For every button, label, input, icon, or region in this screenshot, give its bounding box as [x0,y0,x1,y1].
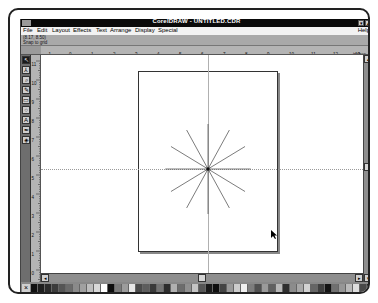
color-swatch[interactable] [143,284,150,292]
color-swatch[interactable] [255,284,262,292]
menu-bar: File Edit Layout Effects Text Arrange Di… [21,27,370,35]
menu-special[interactable]: Special [158,27,178,33]
color-swatch[interactable] [59,284,66,292]
minimize-button[interactable]: ▾ [358,20,364,26]
maximize-button[interactable]: ▴ [365,20,370,26]
color-swatch[interactable] [199,284,206,292]
color-swatch[interactable] [108,284,115,292]
menu-effects[interactable]: Effects [73,27,91,33]
color-swatch[interactable] [171,284,178,292]
menu-edit[interactable]: Edit [37,27,47,33]
color-swatch[interactable] [31,284,38,292]
toolbox: ↖ ⅄ ⌕ ✎ ▭ ○ A ✒ ◈ [21,55,31,282]
svg-text:10: 10 [32,81,38,86]
color-swatch[interactable] [360,284,367,292]
color-swatch[interactable] [262,284,269,292]
menu-layout[interactable]: Layout [52,27,70,33]
horizontal-scroll-thumb[interactable] [198,274,206,282]
svg-text:8: 8 [32,119,35,124]
shape-tool-icon[interactable]: ⅄ [22,66,30,74]
svg-text:3: 3 [32,214,35,219]
color-swatch[interactable] [248,284,255,292]
no-fill-swatch[interactable]: × [22,284,30,292]
mouse-cursor-icon [271,230,279,240]
svg-text:1: 1 [32,252,35,257]
color-swatch[interactable] [87,284,94,292]
star-burst-drawing[interactable] [41,55,363,282]
horizontal-scrollbar[interactable]: ◂ ▸ [41,273,363,282]
menu-help[interactable]: Help [358,27,370,33]
menu-text[interactable]: Text [96,27,107,33]
color-swatch[interactable] [297,284,304,292]
color-swatch[interactable] [346,284,353,292]
color-swatch[interactable] [45,284,52,292]
color-swatch[interactable] [122,284,129,292]
screen-bezel: CorelDRAW - UNTITLED.CDR ▾ ▴ File Edit L… [8,8,370,294]
color-swatch[interactable] [157,284,164,292]
color-swatch[interactable] [185,284,192,292]
outline-tool-icon[interactable]: ✒ [22,126,30,134]
color-swatch[interactable] [80,284,87,292]
color-swatch[interactable] [339,284,346,292]
drawing-canvas[interactable] [41,55,363,282]
color-swatch[interactable] [318,284,325,292]
color-swatch[interactable] [73,284,80,292]
color-swatch[interactable] [115,284,122,292]
status-line: (8.17, 8.50) Snap to grid [21,35,370,46]
svg-text:2: 2 [32,233,35,238]
color-swatch[interactable] [234,284,241,292]
color-swatch[interactable] [150,284,157,292]
color-swatch[interactable] [332,284,339,292]
color-swatch[interactable] [136,284,143,292]
color-swatch[interactable] [213,284,220,292]
menu-file[interactable]: File [23,27,33,33]
color-swatch[interactable] [241,284,248,292]
scroll-up-button[interactable]: ▴ [364,55,370,63]
color-swatch[interactable] [101,284,108,292]
color-swatch[interactable] [178,284,185,292]
color-swatch[interactable] [269,284,276,292]
color-swatch[interactable] [311,284,318,292]
horizontal-ruler[interactable]: -1012345678910111213inches [41,46,370,55]
pencil-tool-icon[interactable]: ✎ [22,86,30,94]
menu-display[interactable]: Display [135,27,155,33]
color-swatch[interactable] [66,284,73,292]
text-tool-icon[interactable]: A [22,116,30,124]
color-palette: × [21,282,370,294]
color-swatch[interactable] [206,284,213,292]
color-swatch[interactable] [367,284,370,292]
color-swatch[interactable] [38,284,45,292]
ellipse-tool-icon[interactable]: ○ [22,106,30,114]
pick-tool-icon[interactable]: ↖ [22,56,30,64]
color-swatch[interactable] [129,284,136,292]
color-swatch[interactable] [220,284,227,292]
vertical-scroll-thumb[interactable] [364,163,370,171]
color-swatch[interactable] [283,284,290,292]
color-swatch[interactable] [192,284,199,292]
vertical-ruler[interactable]: 11109876543210 [31,55,41,282]
window-title: CorelDRAW - UNTITLED.CDR [21,18,370,24]
scroll-down-button[interactable]: ▾ [364,274,370,282]
color-swatch[interactable] [353,284,360,292]
color-swatch[interactable] [164,284,171,292]
scroll-left-button[interactable]: ◂ [41,274,49,282]
color-swatch[interactable] [227,284,234,292]
color-swatch[interactable] [325,284,332,292]
rectangle-tool-icon[interactable]: ▭ [22,96,30,104]
svg-text:9: 9 [32,100,35,105]
color-swatch[interactable] [290,284,297,292]
title-bar[interactable]: CorelDRAW - UNTITLED.CDR ▾ ▴ [21,19,370,27]
color-swatch[interactable] [304,284,311,292]
menu-arrange[interactable]: Arrange [110,27,131,33]
color-swatch[interactable] [52,284,59,292]
selection-center[interactable] [207,168,210,171]
vertical-scrollbar[interactable]: ▴ ▾ [363,55,370,282]
fill-tool-icon[interactable]: ◈ [22,136,30,144]
zoom-tool-icon[interactable]: ⌕ [22,76,30,84]
scroll-right-button[interactable]: ▸ [355,274,363,282]
svg-text:11: 11 [32,62,37,67]
ruler-corner[interactable] [21,46,41,55]
color-swatch[interactable] [94,284,101,292]
color-swatch[interactable] [276,284,283,292]
status-mode: Snap to grid [23,40,47,45]
